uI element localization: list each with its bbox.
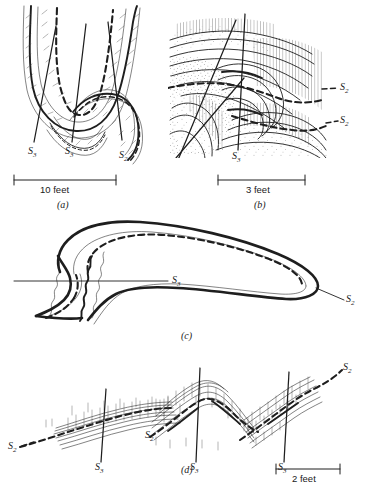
label-a-s3-left: S3 [28,146,37,159]
fold-marker-outer-left [30,6,137,131]
panel-d-sub3 [240,370,342,462]
label-d-s2-far-left: S2 [8,441,17,454]
s2-dashed-d3 [240,370,342,440]
panel-d-drawing [20,368,342,474]
scale-label-a: 10 feet [40,185,69,195]
panel-d-sub2 [150,368,258,462]
label-b-s2-lower: S2 [340,115,349,128]
scale-label-b: 3 feet [246,185,270,195]
label-c-s2: S2 [346,294,355,307]
label-b-s2-upper: S2 [340,82,349,95]
panel-c-drawing [14,222,344,324]
axial-trace-c-s2-leader [316,288,344,300]
figure-root: .ln { fill:none; stroke:#1e1e1e; stroke-… [0,0,376,499]
panel-d-sub1 [20,389,180,462]
crenulation-bold-c [80,256,92,321]
label-d-s2-far-right: S2 [343,362,352,375]
label-b-s3-bottom: S3 [232,151,241,164]
label-d-s3-first: S3 [95,462,104,475]
label-d-s2-second: S2 [145,430,154,443]
label-c-s3: S3 [172,275,181,288]
axial-trace-a-s3-mid [72,24,86,142]
panel-caption-b: (b) [254,199,266,210]
figure-drawing-canvas: .ln { fill:none; stroke:#1e1e1e; stroke-… [0,0,376,499]
scale-label-d: 2 feet [292,474,316,484]
panel-caption-c: (c) [181,330,192,341]
s2-dashed-axial-c [88,235,303,286]
label-a-s2-right: S2 [119,150,128,163]
axial-trace-d1-s3 [101,389,106,462]
panel-b-drawing [168,18,328,164]
label-d-s3-third: S3 [278,462,287,475]
label-a-s3-mid: S3 [65,146,74,159]
panel-caption-a: (a) [57,199,69,210]
axial-trace-d3-s3 [284,372,289,462]
panel-caption-d: (d) [181,464,193,475]
